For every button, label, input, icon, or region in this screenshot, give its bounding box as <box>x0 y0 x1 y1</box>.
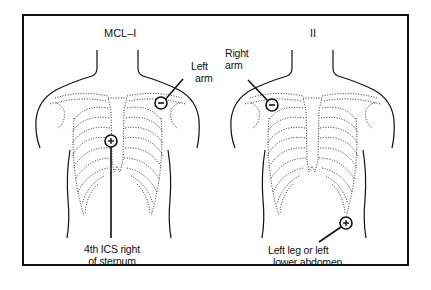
torso-illustrations <box>0 0 431 290</box>
electrode-positive-lead2 <box>319 217 352 242</box>
label-right-arm: Right arm <box>225 47 249 71</box>
label-line: Left leg or left <box>268 244 342 256</box>
label-left-arm: Left arm <box>191 60 212 84</box>
label-left-leg: Left leg or left lower abdomen <box>268 244 342 268</box>
torso-lead2 <box>231 50 394 238</box>
label-line: arm <box>191 72 212 84</box>
label-line: Left <box>191 60 212 72</box>
panel-title-lead2: II <box>310 27 316 39</box>
label-line: arm <box>225 59 249 71</box>
label-line: lower abdomen <box>268 256 342 268</box>
label-line: Right <box>225 47 249 59</box>
label-4th-ics: 4th ICS right of sternum <box>70 243 154 267</box>
torso-mcl1 <box>36 50 199 238</box>
label-line: of sternum <box>70 255 154 267</box>
label-line: 4th ICS right <box>70 243 154 255</box>
electrode-negative-mcl1 <box>155 79 183 109</box>
electrode-positive-mcl1 <box>105 135 117 238</box>
panel-title-mcl1: MCL–I <box>104 27 136 39</box>
